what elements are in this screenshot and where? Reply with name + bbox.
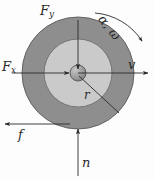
force-x-label: Fx	[2, 60, 16, 75]
radius-label: r	[84, 89, 90, 101]
free-body-diagram-figure: Fy Fx v r f n α, ω	[0, 0, 155, 180]
force-y-label: Fy	[40, 4, 54, 19]
normal-force-label: n	[82, 156, 90, 169]
diagram-canvas	[0, 0, 155, 180]
friction-label: f	[18, 128, 23, 141]
velocity-label: v	[128, 58, 135, 71]
